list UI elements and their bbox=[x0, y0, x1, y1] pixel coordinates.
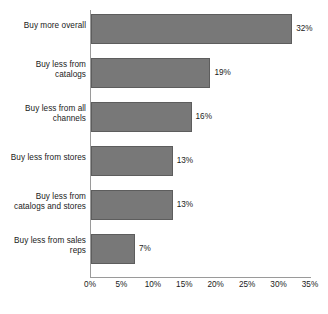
x-axis-tick-label: 10% bbox=[140, 280, 166, 290]
x-axis-tick-label: 25% bbox=[234, 280, 260, 290]
x-axis-line bbox=[90, 277, 311, 278]
bar bbox=[91, 234, 135, 264]
bar-value-label: 32% bbox=[296, 14, 312, 44]
x-axis-tick-label: 30% bbox=[266, 280, 292, 290]
plot-area: 32% 19% 16% 13% 13% 7% bbox=[90, 10, 310, 277]
bar bbox=[91, 190, 173, 220]
bar bbox=[91, 58, 210, 88]
x-axis-tick-label: 20% bbox=[203, 280, 229, 290]
category-label: Buy less from allchannels bbox=[0, 104, 86, 123]
bar-value-label: 16% bbox=[196, 102, 212, 132]
category-label: Buy less from stores bbox=[0, 153, 86, 163]
bar bbox=[91, 146, 173, 176]
category-label: Buy less fromcatalogs and stores bbox=[0, 192, 86, 211]
bar-value-label: 13% bbox=[177, 190, 193, 220]
x-axis-tick-labels: 0%5%10%15%20%25%30%35% bbox=[90, 280, 316, 294]
bar-value-label: 13% bbox=[177, 146, 193, 176]
category-label: Buy less from salesreps bbox=[0, 236, 86, 255]
bar-chart: Buy more overall Buy less fromcatalogs B… bbox=[0, 0, 328, 314]
x-axis-tick-label: 35% bbox=[297, 280, 323, 290]
bar bbox=[91, 14, 292, 44]
category-label: Buy less fromcatalogs bbox=[0, 60, 86, 79]
x-axis-tick-label: 15% bbox=[171, 280, 197, 290]
x-axis-tick-label: 5% bbox=[108, 280, 134, 290]
bar-value-label: 19% bbox=[214, 58, 230, 88]
bar bbox=[91, 102, 192, 132]
category-label: Buy more overall bbox=[0, 21, 86, 31]
bar-value-label: 7% bbox=[139, 234, 151, 264]
x-axis-tick-label: 0% bbox=[77, 280, 103, 290]
